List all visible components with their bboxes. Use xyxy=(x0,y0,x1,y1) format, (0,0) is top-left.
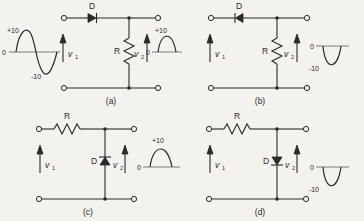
input-terminal-bottom-a xyxy=(61,85,66,90)
input-terminal-bottom-b xyxy=(208,85,213,90)
v1-label-d: v xyxy=(215,160,220,170)
input-waveform-a: +10 0 -10 xyxy=(2,27,60,80)
v1-arrow-b: v 1 xyxy=(207,34,225,62)
junction-bottom-c xyxy=(103,197,107,201)
panel-c: v 1 R D v 2 +10 0 (c) xyxy=(0,111,182,221)
output-trough-label-b: -10 xyxy=(309,65,319,72)
output-waveform-a: +10 0 xyxy=(146,27,182,56)
v1-label-b: v xyxy=(215,49,220,59)
output-waveform-d: 0 -10 xyxy=(309,164,349,193)
output-terminal-top-d xyxy=(303,126,308,131)
diode-c: D xyxy=(91,129,111,199)
v1-arrow-c: v 1 xyxy=(37,145,55,173)
caption-b: (b) xyxy=(255,96,266,106)
v2-label-c: v xyxy=(113,160,118,170)
diode-d: D xyxy=(263,129,283,199)
output-zero-label-b: 0 xyxy=(310,43,314,50)
resistor-label-a: R xyxy=(114,46,120,56)
panel-d: v 1 R D v 2 0 -10 (d) xyxy=(182,111,364,221)
v1-sub-d: 1 xyxy=(222,165,225,171)
input-zero-label-a: 0 xyxy=(2,49,6,56)
input-terminal-top-a xyxy=(61,15,66,20)
output-zero-label-c: 0 xyxy=(137,164,141,171)
resistor-label-b: R xyxy=(262,46,268,56)
diode-a: D xyxy=(88,1,129,23)
junction-bottom-d xyxy=(275,197,279,201)
caption-d: (d) xyxy=(255,207,266,217)
input-terminal-bottom-d xyxy=(206,196,211,201)
junction-bottom-b xyxy=(275,86,279,90)
junction-bottom-a xyxy=(127,86,131,90)
v2-sub-c: 2 xyxy=(120,165,123,171)
resistor-c: R xyxy=(42,111,105,134)
v2-arrow-a: v 2 xyxy=(134,34,150,62)
v2-label-d: v xyxy=(285,160,290,170)
output-peak-label-a: +10 xyxy=(155,27,167,34)
caption-c: (c) xyxy=(83,207,93,217)
output-terminal-top-b xyxy=(304,15,309,20)
v2-arrow-c: v 2 xyxy=(113,145,128,173)
resistor-a: R xyxy=(114,18,134,88)
input-terminal-top-c xyxy=(36,126,41,131)
panel-b: v 1 D R v 2 0 -10 (b) xyxy=(182,0,364,110)
output-terminal-bottom-d xyxy=(303,196,308,201)
output-zero-label-a: 0 xyxy=(146,49,150,56)
v2-label-a: v xyxy=(134,49,139,59)
v1-arrow-a: v 1 xyxy=(60,34,78,62)
v2-sub-b: 2 xyxy=(291,54,294,60)
output-zero-label-d: 0 xyxy=(310,164,314,171)
resistor-d: R xyxy=(212,111,277,134)
output-terminal-bottom-b xyxy=(304,85,309,90)
output-terminal-top-c xyxy=(131,126,136,131)
v1-sub-b: 1 xyxy=(222,54,225,60)
resistor-b: R xyxy=(262,18,282,88)
input-trough-label-a: -10 xyxy=(31,73,41,80)
v2-label-b: v xyxy=(284,49,289,59)
diode-label-b: D xyxy=(236,1,242,11)
v2-sub-a: 2 xyxy=(141,54,144,60)
input-terminal-top-b xyxy=(208,15,213,20)
v1-label-c: v xyxy=(45,160,50,170)
output-terminal-top-a xyxy=(155,15,160,20)
resistor-label-c: R xyxy=(64,111,70,121)
v1-label-a: v xyxy=(68,49,73,59)
diode-label-a: D xyxy=(89,1,95,11)
output-terminal-bottom-c xyxy=(131,196,136,201)
input-terminal-top-d xyxy=(206,126,211,131)
v2-arrow-d: v 2 xyxy=(285,145,300,173)
caption-a: (a) xyxy=(106,96,117,106)
output-peak-label-c: +10 xyxy=(152,137,164,144)
v1-arrow-d: v 1 xyxy=(207,145,225,173)
output-trough-label-d: -10 xyxy=(309,186,319,193)
output-waveform-c: +10 0 xyxy=(137,137,180,171)
v1-sub-a: 1 xyxy=(75,54,78,60)
diode-label-c: D xyxy=(91,156,97,166)
panel-a: +10 0 -10 v 1 D R v 2 xyxy=(0,0,182,110)
input-peak-label-a: +10 xyxy=(7,27,19,34)
v2-sub-d: 2 xyxy=(292,165,295,171)
resistor-label-d: R xyxy=(234,111,240,121)
input-terminal-bottom-c xyxy=(36,196,41,201)
diode-label-d: D xyxy=(263,156,269,166)
v2-arrow-b: v 2 xyxy=(284,34,300,62)
output-terminal-bottom-a xyxy=(155,85,160,90)
output-waveform-b: 0 -10 xyxy=(309,43,349,72)
diode-b: D xyxy=(235,1,277,23)
v1-sub-c: 1 xyxy=(52,165,55,171)
